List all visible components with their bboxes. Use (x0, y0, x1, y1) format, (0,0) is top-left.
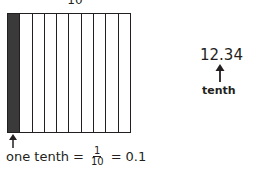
equals-sign: = (111, 149, 122, 164)
caption-decimal: 0.1 (126, 149, 147, 164)
equals-sign: = (73, 149, 84, 164)
strip (45, 14, 57, 132)
strip (82, 14, 94, 132)
strip (119, 14, 130, 132)
caption-words: one tenth (6, 149, 69, 164)
strip (106, 14, 118, 132)
strip (57, 14, 69, 132)
grid-top-label: 10 (60, 0, 90, 7)
caption: one tenth = 1 10 = 0.1 (6, 146, 146, 167)
tenths-model (7, 13, 131, 133)
shaded-strip (8, 14, 20, 132)
fraction: 1 10 (91, 146, 104, 167)
strip (33, 14, 45, 132)
strip (94, 14, 106, 132)
strip (69, 14, 81, 132)
decimal-number: 12.34 (200, 46, 243, 64)
fraction-denominator: 10 (91, 157, 104, 167)
arrow-up-icon (214, 64, 226, 82)
strip (20, 14, 32, 132)
place-value-label: tenth (202, 84, 236, 97)
